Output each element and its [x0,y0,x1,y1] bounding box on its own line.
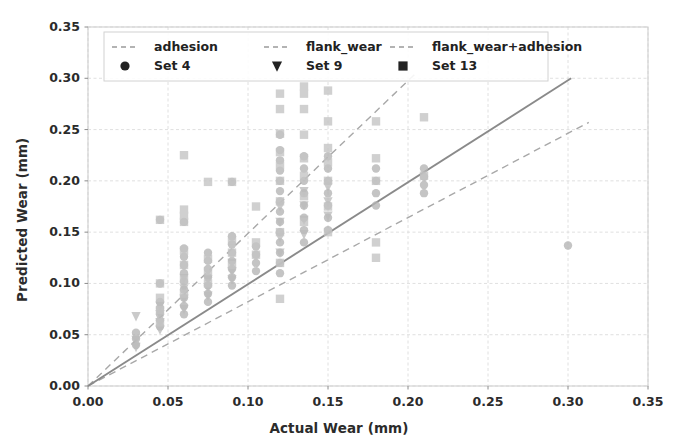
data-point [324,202,332,210]
data-point [276,177,284,185]
data-point [204,279,212,287]
data-point [228,236,236,244]
x-tick-label: 0.35 [618,394,678,409]
x-tick-label: 0.30 [538,394,598,409]
data-point [300,131,308,139]
data-point [564,241,572,249]
data-point [156,216,164,224]
data-point [372,201,380,209]
data-point [156,294,164,302]
data-point [420,181,428,189]
data-point [372,238,380,246]
x-tick-label: 0.10 [218,394,278,409]
data-point [156,279,164,287]
data-point [276,161,284,169]
data-point [372,189,380,197]
x-tick-label: 0.05 [138,394,198,409]
data-point [324,117,332,125]
y-tick-label: 0.15 [24,224,80,239]
x-tick-label: 0.20 [378,394,438,409]
data-point [372,254,380,262]
data-point [252,267,260,275]
data-point [276,295,284,303]
legend-label-flank_wear-adhesion[interactable]: flank_wear+adhesion [432,39,582,54]
data-point [156,318,164,326]
data-point [156,306,164,314]
legend-label-flank_wear[interactable]: flank_wear [306,39,382,54]
data-point [132,328,140,336]
data-point [276,105,284,113]
x-tick-label: 0.00 [58,394,118,409]
data-point [324,228,332,236]
data-point [228,261,236,269]
data-point [299,230,308,239]
data-point [300,89,308,97]
data-point [180,275,188,283]
data-point [300,164,308,172]
data-point [180,261,188,269]
y-tick-label: 0.20 [24,173,80,188]
data-point [324,86,332,94]
data-point [131,312,140,321]
data-point [372,164,380,172]
y-tick-label: 0.35 [24,19,80,34]
data-point [372,117,380,125]
data-point [420,172,428,180]
data-point [300,154,308,162]
data-point [324,158,332,166]
data-point [252,202,260,210]
data-point [300,238,308,246]
trend-line-flank-wear [88,122,589,386]
data-point [180,205,188,213]
data-point [300,82,308,90]
data-point [228,178,236,186]
data-point [372,154,380,162]
data-point [276,197,284,205]
legend-label-set-4[interactable]: Set 4 [154,58,191,73]
x-axis-label: Actual Wear (mm) [0,420,678,436]
data-point [324,177,332,185]
legend-label-adhesion[interactable]: adhesion [154,39,218,54]
data-point [252,259,260,267]
data-point [204,255,212,263]
y-tick-label: 0.30 [24,70,80,85]
y-tick-label: 0.05 [24,327,80,342]
data-point [300,192,308,200]
data-point [276,228,284,236]
data-point [276,269,284,277]
data-point [180,246,188,254]
data-point [204,178,212,186]
legend-marker-circle [120,61,129,70]
data-point [180,151,188,159]
data-point [276,148,284,156]
y-tick-label: 0.10 [24,275,80,290]
data-point [420,189,428,197]
trend-lines [88,73,589,386]
legend-label-set-13[interactable]: Set 13 [432,58,477,73]
data-point [300,218,308,226]
data-point [420,164,428,172]
data-point [204,267,212,275]
data-point [252,238,260,246]
data-point [276,187,284,195]
data-point [420,113,428,121]
legend-marker-square [398,61,407,70]
data-point [276,259,284,267]
data-point [276,129,284,137]
series-set-13 [156,82,428,326]
x-tick-label: 0.15 [298,394,358,409]
x-tick-label: 0.25 [458,394,518,409]
data-point [300,172,308,180]
legend-label-set-9[interactable]: Set 9 [306,58,343,73]
data-point [252,251,260,259]
data-point [372,177,380,185]
data-point [276,89,284,97]
data-point [228,248,236,256]
data-point [300,105,308,113]
data-point [324,144,332,152]
y-tick-label: 0.00 [24,378,80,393]
data-point [180,289,188,297]
y-tick-label: 0.25 [24,122,80,137]
